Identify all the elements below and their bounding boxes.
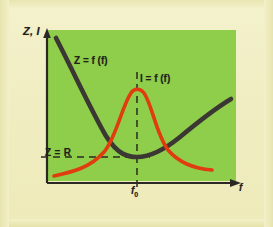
- x-axis: [47, 179, 241, 187]
- x-axis-label: f: [239, 183, 242, 193]
- current-curve-label: I = f (f): [140, 74, 170, 84]
- resonance-curve-figure: Z, I Z = f (f) I = f (f) Z = R f0 f: [0, 0, 273, 227]
- impedance-curve-label: Z = f (f): [74, 56, 108, 66]
- y-axis: [43, 28, 51, 183]
- f0-tick-label: f0: [131, 186, 138, 198]
- y-axis-label: Z, I: [23, 26, 40, 37]
- z-equals-r-label: Z = R: [45, 148, 71, 158]
- f0-tick-label-subscript: 0: [134, 191, 138, 198]
